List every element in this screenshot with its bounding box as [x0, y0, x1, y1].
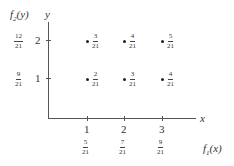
dot-icon	[161, 78, 164, 81]
point-1-1: 221	[86, 71, 99, 88]
y-marginal-2: 1221	[14, 33, 23, 50]
dot-icon	[86, 78, 89, 81]
point-2-1: 321	[123, 71, 136, 88]
point-3-1: 421	[161, 71, 174, 88]
dot-icon	[123, 78, 126, 81]
x-marginal-2: 721	[119, 139, 126, 156]
dot-icon	[161, 40, 164, 43]
dot-icon	[123, 40, 126, 43]
y-axis-label: y	[45, 9, 50, 20]
dot-icon	[86, 40, 89, 43]
y-tick-2	[46, 40, 51, 41]
x-axis-line	[48, 118, 196, 119]
x-tick-label-3: 3	[159, 124, 165, 135]
y-tick-label-1: 1	[35, 73, 41, 84]
y-axis-line	[48, 22, 49, 119]
point-2-2: 421	[123, 33, 136, 50]
point-3-2: 521	[161, 33, 174, 50]
y-marginal-1: 921	[15, 71, 22, 88]
x-marginal-title: f1(x)	[203, 143, 222, 159]
x-tick-2	[124, 116, 125, 121]
x-axis-label: x	[200, 113, 205, 124]
y-tick-1	[46, 78, 51, 79]
x-tick-label-1: 1	[84, 124, 90, 135]
x-tick-1	[87, 116, 88, 121]
x-marginal-1: 521	[82, 139, 89, 156]
point-1-2: 321	[86, 33, 99, 50]
x-marginal-3: 921	[157, 139, 164, 156]
x-tick-3	[162, 116, 163, 121]
x-tick-label-2: 2	[121, 124, 127, 135]
y-tick-label-2: 2	[35, 35, 41, 46]
y-marginal-title: f2(y)	[10, 9, 29, 25]
